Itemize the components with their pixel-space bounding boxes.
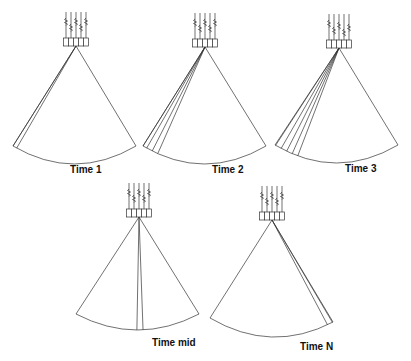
sector-right-edge bbox=[139, 217, 199, 314]
panel-time-3: Time 3 bbox=[275, 14, 398, 174]
beam-steering-diagram: Time 1Time 2Time 3Time midTime N bbox=[0, 0, 411, 361]
transducer-element bbox=[280, 212, 285, 220]
transducer-element bbox=[260, 212, 265, 220]
transducer-element bbox=[332, 40, 337, 48]
beam-line bbox=[13, 46, 76, 146]
panel-label: Time N bbox=[300, 341, 333, 352]
sector-left-edge bbox=[210, 220, 272, 318]
transducer-element bbox=[147, 209, 152, 217]
beam-line bbox=[287, 48, 339, 151]
transducer-element bbox=[198, 39, 203, 47]
transducer-element bbox=[79, 38, 84, 46]
sector-right-edge bbox=[339, 48, 398, 145]
transducer-element bbox=[64, 38, 69, 46]
sector-arc bbox=[143, 146, 266, 164]
sector-arc bbox=[210, 318, 333, 337]
beam-line bbox=[143, 47, 205, 146]
panel-label: Time mid bbox=[152, 337, 196, 348]
sector-right-edge bbox=[76, 46, 136, 146]
transducer-element bbox=[337, 40, 342, 48]
transducer-element bbox=[275, 212, 280, 220]
beam-line bbox=[272, 220, 332, 322]
transducer-element bbox=[84, 38, 89, 46]
transducer-element bbox=[142, 209, 147, 217]
sector-right-edge bbox=[205, 47, 266, 146]
transducer-element bbox=[342, 40, 347, 48]
transducer-element bbox=[132, 209, 137, 217]
panel-time-1: Time 1 bbox=[13, 12, 136, 175]
beam-line bbox=[152, 47, 205, 151]
beam-line bbox=[139, 217, 143, 330]
transducer-element bbox=[327, 40, 332, 48]
transducer-element bbox=[270, 212, 275, 220]
panel-label: Time 3 bbox=[345, 163, 377, 174]
transducer-element bbox=[208, 39, 213, 47]
beam-line bbox=[147, 47, 205, 148]
panel-time-2: Time 2 bbox=[143, 13, 266, 175]
sector-arc bbox=[275, 145, 398, 163]
panel-time-n: Time N bbox=[210, 186, 333, 352]
beam-line bbox=[292, 48, 339, 154]
panel-time-mid: Time mid bbox=[76, 183, 199, 348]
sector-arc bbox=[76, 314, 199, 330]
transducer-element bbox=[193, 39, 198, 47]
sector-left-edge bbox=[76, 217, 139, 314]
transducer-element bbox=[203, 39, 208, 47]
panel-label: Time 1 bbox=[70, 164, 102, 175]
beam-line bbox=[281, 48, 339, 148]
beam-line bbox=[17, 46, 76, 148]
sector-arc bbox=[13, 146, 136, 164]
beam-line bbox=[137, 217, 139, 330]
transducer-element bbox=[265, 212, 270, 220]
transducer-element bbox=[74, 38, 79, 46]
panel-label: Time 2 bbox=[212, 164, 244, 175]
transducer-element bbox=[127, 209, 132, 217]
transducer-element bbox=[213, 39, 218, 47]
transducer-element bbox=[137, 209, 142, 217]
transducer-element bbox=[69, 38, 74, 46]
beam-line bbox=[272, 220, 327, 325]
beam-line bbox=[158, 47, 205, 154]
transducer-element bbox=[347, 40, 352, 48]
